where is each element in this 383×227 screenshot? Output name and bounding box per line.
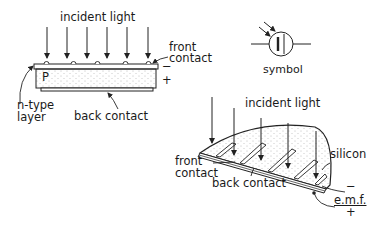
- front-contact-label-line2: contact: [169, 52, 212, 64]
- symbol-label: symbol: [263, 64, 303, 76]
- incident-light-label-curved: incident light: [245, 97, 320, 109]
- silicon-label: silicon: [330, 148, 366, 160]
- emf-plus-wire: [314, 193, 335, 207]
- emf-minus-sign: −: [346, 180, 356, 192]
- solar-cell-symbol: [251, 22, 311, 56]
- diagram-canvas: [0, 0, 383, 227]
- flat-cell: [20, 27, 168, 109]
- back-contact-label-curved: back contact: [212, 177, 286, 189]
- positive-terminal-sign: +: [162, 74, 172, 86]
- incident-light-label: incident light: [60, 11, 135, 23]
- curved-cell: [198, 97, 345, 207]
- incident-light-arrows: [47, 27, 148, 58]
- negative-terminal-sign: −: [162, 60, 172, 72]
- back-contact: [41, 88, 153, 91]
- n-type-label-line2: layer: [17, 111, 46, 123]
- p-type-body: [36, 69, 156, 88]
- emf-plus-sign: +: [346, 206, 356, 218]
- back-contact-label: back contact: [74, 110, 148, 122]
- p-label: P: [42, 71, 49, 83]
- n-type-layer: [34, 64, 158, 69]
- back-contact-leader: [108, 93, 118, 109]
